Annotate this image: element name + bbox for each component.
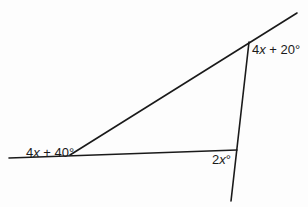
diagram-canvas: 4x + 20° 4x + 40° 2x° [0,0,308,207]
upper-line [70,13,297,155]
angle-label-left: 4x + 40° [26,146,74,159]
angle-label-top-rest: + 20° [266,42,300,57]
angle-label-left-rest: + 40° [40,145,74,160]
triangle-figure [0,0,308,207]
angle-label-top: 4x + 20° [252,43,300,56]
angle-label-bottom: 2x° [212,153,231,166]
steep-line [231,42,249,201]
angle-label-bottom-rest: ° [226,152,231,167]
